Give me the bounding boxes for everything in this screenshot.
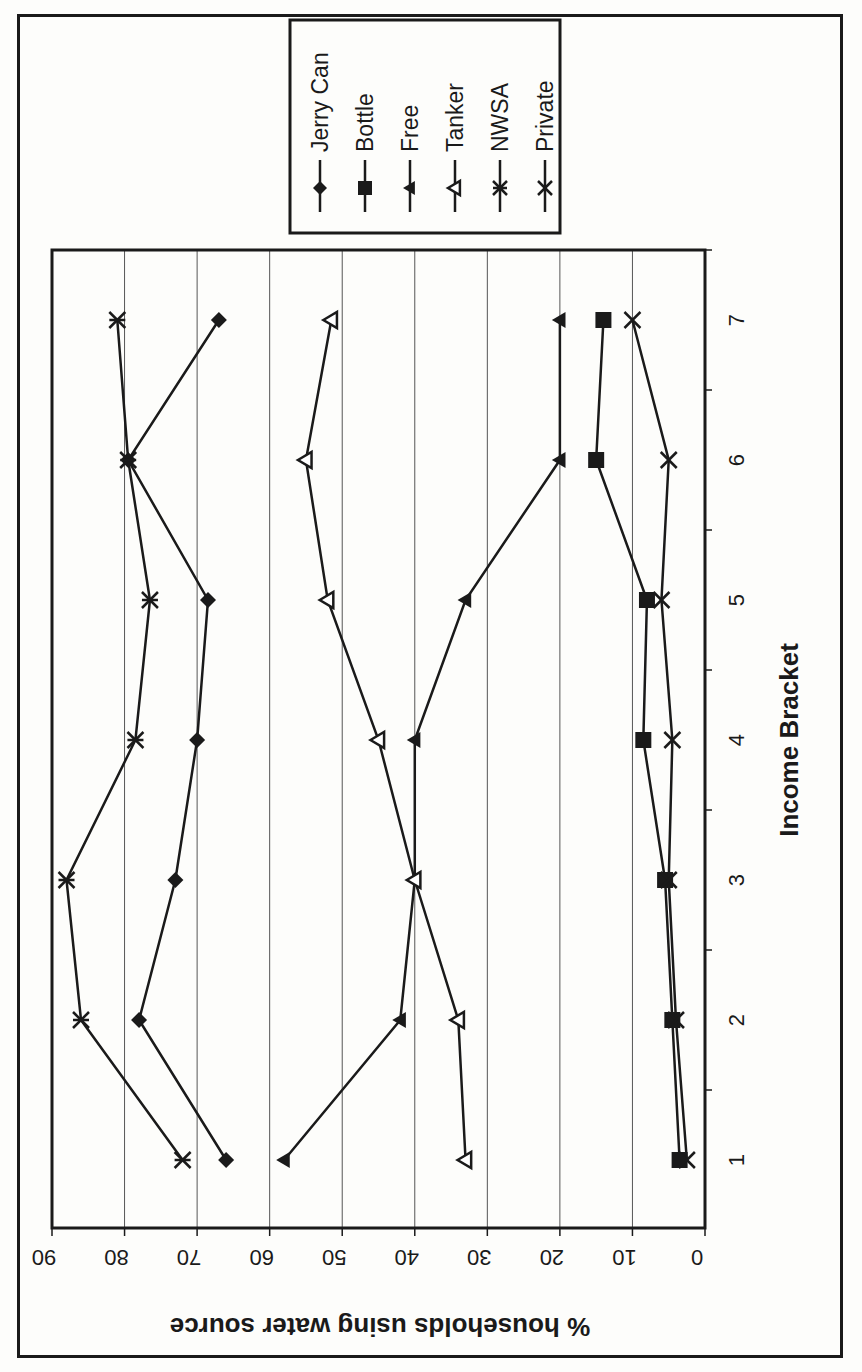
x-axis-title: Income Bracket bbox=[774, 643, 804, 837]
y-tick-label: 20 bbox=[540, 1245, 564, 1270]
legend-label: Bottle bbox=[352, 93, 378, 152]
x-axis-ticks: 1234567 bbox=[705, 250, 749, 1166]
legend-label: Free bbox=[397, 105, 423, 152]
line-chart: 0102030405060708090 1234567 Income Brack… bbox=[0, 0, 862, 1372]
legend-label: Private bbox=[532, 80, 558, 152]
y-tick-label: 40 bbox=[395, 1245, 419, 1270]
x-tick-label: 5 bbox=[724, 594, 749, 606]
y-tick-label: 90 bbox=[32, 1245, 56, 1270]
legend-label: NWSA bbox=[487, 82, 513, 152]
legend-label: Tanker bbox=[442, 83, 468, 152]
y-tick-label: 80 bbox=[104, 1245, 128, 1270]
x-tick-label: 7 bbox=[724, 314, 749, 326]
y-tick-label: 30 bbox=[467, 1245, 491, 1270]
y-tick-label: 70 bbox=[177, 1245, 201, 1270]
series-lines bbox=[59, 312, 695, 1168]
x-tick-label: 3 bbox=[724, 874, 749, 886]
x-tick-label: 4 bbox=[724, 734, 749, 746]
y-tick-label: 50 bbox=[322, 1245, 346, 1270]
x-tick-label: 6 bbox=[724, 454, 749, 466]
y-tick-label: 60 bbox=[249, 1245, 273, 1270]
y-axis-ticks: 0102030405060708090 bbox=[32, 1228, 705, 1270]
series-private bbox=[624, 312, 694, 1168]
legend-label: Jerry Can bbox=[307, 52, 333, 152]
y-tick-label: 10 bbox=[612, 1245, 636, 1270]
y-tick-label: 0 bbox=[691, 1245, 703, 1270]
x-tick-label: 2 bbox=[724, 1014, 749, 1026]
x-tick-label: 1 bbox=[724, 1154, 749, 1166]
series-free bbox=[276, 312, 565, 1168]
y-axis-title: % households using water source bbox=[170, 1312, 590, 1342]
legend: Jerry CanBottleFreeTankerNWSAPrivate bbox=[290, 20, 560, 233]
